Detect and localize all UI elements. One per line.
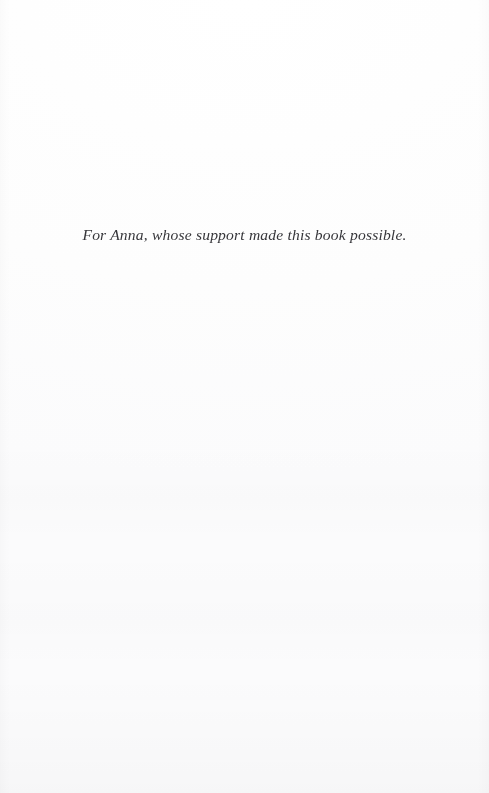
dedication-page: For Anna, whose support made this book p…	[0, 0, 489, 793]
paper-texture	[0, 0, 489, 793]
scan-banding	[0, 436, 489, 793]
page-edge-shading	[0, 0, 489, 793]
dedication-text: For Anna, whose support made this book p…	[0, 226, 489, 244]
